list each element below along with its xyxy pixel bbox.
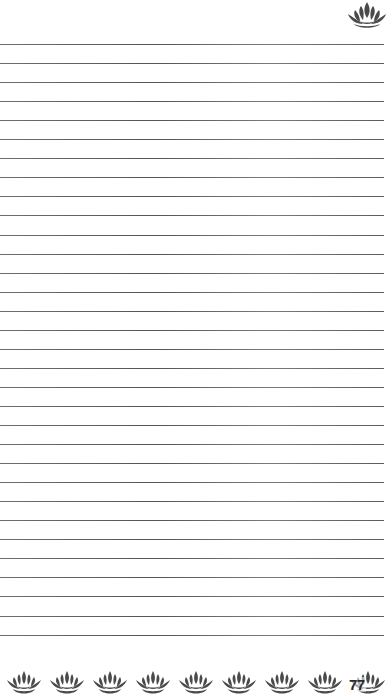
ruled-line <box>0 215 384 216</box>
ruled-line <box>0 577 384 578</box>
ruled-line <box>0 44 384 45</box>
ruled-line <box>0 82 384 83</box>
ruled-line <box>0 425 384 426</box>
ruled-line <box>0 63 384 64</box>
ruled-line <box>0 196 384 197</box>
ruled-line <box>0 292 384 293</box>
ruled-line <box>0 235 384 236</box>
page-number: 77 <box>348 677 366 692</box>
lotus-icon <box>49 670 85 697</box>
ruled-line <box>0 482 384 483</box>
ruled-line <box>0 387 384 388</box>
lotus-icon <box>92 670 128 697</box>
ruled-line <box>0 444 384 445</box>
ruled-line <box>0 520 384 521</box>
ruled-line <box>0 406 384 407</box>
ruled-line <box>0 463 384 464</box>
lotus-border <box>0 670 390 693</box>
lotus-icon <box>135 670 171 697</box>
ruled-line <box>0 368 384 369</box>
ruled-line <box>0 158 384 159</box>
ruled-line <box>0 273 384 274</box>
ruled-line <box>0 635 384 636</box>
ruled-line <box>0 330 384 331</box>
ruled-line <box>0 101 384 102</box>
lotus-icon <box>6 670 42 697</box>
ruled-line <box>0 311 384 312</box>
ruled-line <box>0 539 384 540</box>
lotus-icon <box>264 670 300 697</box>
lotus-icon <box>307 670 343 697</box>
ruled-line <box>0 596 384 597</box>
lotus-icon <box>178 670 214 697</box>
lotus-icon <box>221 670 257 697</box>
ruled-line <box>0 558 384 559</box>
ruled-line <box>0 254 384 255</box>
ruled-line <box>0 139 384 140</box>
ruled-line <box>0 349 384 350</box>
ruled-line <box>0 501 384 502</box>
ruled-line <box>0 616 384 617</box>
ruled-line <box>0 177 384 178</box>
ruled-line <box>0 120 384 121</box>
